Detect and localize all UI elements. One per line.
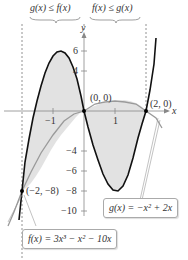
- point-label-2-0: (2, 0): [150, 99, 172, 109]
- point-2-0: [144, 109, 148, 113]
- x-tick-label: −1: [45, 116, 56, 126]
- brace-right: [90, 17, 140, 23]
- point-label-origin: (0, 0): [90, 93, 112, 103]
- x-tick-label: 1: [113, 116, 118, 126]
- y-tick-label: 4: [73, 66, 78, 76]
- f-function-label: f(x) = 3x³ − x² − 10x: [22, 229, 117, 249]
- y-tick-label: 6: [73, 46, 78, 56]
- y-tick-label: −4: [66, 146, 77, 156]
- point-neg2-neg8: [20, 189, 24, 193]
- point-label-neg2-neg8: (−2, −8): [26, 186, 59, 196]
- graph-canvas: [0, 0, 188, 260]
- region-label-right: f(x) ≤ g(x): [92, 3, 132, 13]
- graph-figure: g(x) ≤ f(x) f(x) ≤ g(x) y x −1 1 6 4 −4 …: [0, 0, 188, 260]
- y-axis-label: y: [81, 23, 85, 33]
- brace-left: [30, 17, 80, 23]
- y-tick-label: −8: [66, 186, 77, 196]
- g-function-label: g(x) = −x² + 2x: [103, 198, 178, 218]
- y-tick-label: −6: [66, 166, 77, 176]
- region-label-left: g(x) ≤ f(x): [30, 3, 70, 13]
- y-tick-label: −10: [61, 206, 77, 216]
- x-axis-label: x: [172, 106, 176, 116]
- point-origin: [82, 109, 86, 113]
- x-axis-arrow-icon: [164, 109, 170, 114]
